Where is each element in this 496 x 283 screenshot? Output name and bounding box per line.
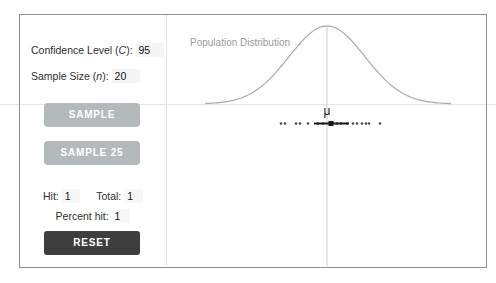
sample-dot: [295, 122, 298, 125]
confidence-level-row: Confidence Level (C): 95: [31, 44, 164, 56]
sample-size-input[interactable]: 20: [112, 69, 141, 83]
population-distribution-label: Population Distribution →: [190, 37, 303, 48]
sample-button[interactable]: SAMPLE: [44, 103, 140, 127]
percent-hit-label: Percent hit:: [56, 210, 109, 222]
confidence-level-label: Confidence Level (: [31, 44, 119, 56]
sample-dot: [379, 122, 382, 125]
sample-dot: [365, 122, 368, 125]
sample-dot: [356, 122, 359, 125]
sample-dot: [368, 122, 371, 125]
sample-size-label: Sample Size (: [31, 70, 96, 82]
percent-hit-value: 1: [112, 209, 131, 223]
total-value: 1: [124, 189, 143, 203]
sample-dot: [307, 122, 310, 125]
percent-hit-row: Percent hit: 1: [19, 210, 167, 222]
confidence-level-label-end: ):: [126, 44, 135, 56]
sample-dot: [361, 122, 364, 125]
sample-dot: [299, 122, 302, 125]
sample-mean-marker: [329, 121, 334, 126]
sample-dot: [280, 122, 283, 125]
hit-label: Hit:: [43, 190, 59, 202]
confidence-level-input[interactable]: 95: [136, 43, 165, 57]
applet-screen: Population Distribution → μ Confidence L…: [0, 0, 496, 283]
total-label: Total:: [96, 190, 121, 202]
mu-label: μ: [319, 104, 335, 118]
sample-dot: [284, 122, 287, 125]
sample-dot: [352, 122, 355, 125]
sample-size-label-end: ):: [102, 70, 111, 82]
hit-value: 1: [62, 189, 81, 203]
sample-25-button[interactable]: SAMPLE 25: [44, 141, 140, 165]
sample-size-row: Sample Size (n): 20: [31, 70, 140, 82]
reset-button[interactable]: RESET: [44, 231, 140, 255]
hit-total-row: Hit: 1 Total: 1: [19, 190, 167, 202]
